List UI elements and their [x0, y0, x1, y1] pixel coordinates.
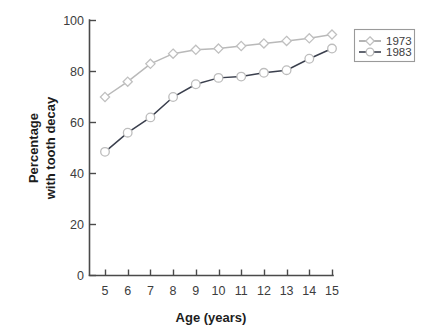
data-point-1983-age-12[interactable]: [260, 68, 269, 77]
x-tick-label-15: 15: [325, 284, 339, 298]
data-point-1983-age-8[interactable]: [169, 93, 178, 102]
y-tick-label-80: 80: [70, 65, 84, 79]
y-axis-tick-labels: 0 20 40 60 80 100: [63, 14, 84, 283]
x-axis-tick-labels: 56789101112131415: [102, 284, 339, 298]
x-tick-label-6: 6: [124, 284, 131, 298]
data-point-1983-age-10[interactable]: [214, 74, 223, 83]
y-axis-title: Percentage with tooth decay: [26, 96, 58, 200]
x-axis-title: Age (years): [176, 310, 247, 325]
y-axis-title-line2: with tooth decay: [43, 96, 58, 200]
legend-marker-circle-icon: [366, 48, 374, 56]
data-point-1973-age-8[interactable]: [169, 49, 178, 58]
data-point-1973-age-9[interactable]: [191, 45, 200, 54]
data-point-1973-age-14[interactable]: [305, 34, 314, 43]
data-point-1983-age-9[interactable]: [192, 80, 201, 89]
x-tick-label-9: 9: [192, 284, 199, 298]
data-point-1983-age-11[interactable]: [237, 72, 246, 81]
x-axis-ticks: [106, 270, 333, 276]
chart-figure: 0 20 40 60 80 100 56789101112131415 Age …: [0, 0, 434, 335]
data-point-1983-age-15[interactable]: [328, 44, 337, 53]
data-point-1973-age-15[interactable]: [327, 30, 336, 39]
x-tick-label-7: 7: [147, 284, 154, 298]
x-tick-label-8: 8: [170, 284, 177, 298]
series-layer: [100, 30, 336, 156]
data-point-1983-age-6[interactable]: [123, 128, 132, 137]
axes: [90, 20, 334, 276]
data-point-1973-age-5[interactable]: [100, 92, 109, 101]
y-axis-ticks: [90, 21, 97, 276]
legend: 1973 1983: [355, 30, 415, 62]
data-point-1983-age-14[interactable]: [305, 54, 314, 63]
line-chart: 0 20 40 60 80 100 56789101112131415 Age …: [0, 0, 434, 335]
x-tick-label-14: 14: [302, 284, 316, 298]
y-tick-label-0: 0: [77, 269, 84, 283]
data-point-1983-age-13[interactable]: [282, 66, 291, 75]
y-tick-label-100: 100: [63, 14, 84, 28]
series-1983: [101, 44, 337, 156]
series-1973: [100, 30, 336, 102]
data-point-1983-age-5[interactable]: [101, 148, 110, 157]
series-line-1983: [105, 49, 332, 152]
y-tick-label-40: 40: [70, 167, 84, 181]
data-point-1973-age-10[interactable]: [214, 44, 223, 53]
x-tick-label-11: 11: [235, 284, 248, 298]
y-axis-title-line1: Percentage: [26, 113, 41, 183]
x-tick-label-5: 5: [102, 284, 109, 298]
x-tick-label-13: 13: [280, 284, 294, 298]
data-point-1973-age-13[interactable]: [282, 36, 291, 45]
y-tick-label-60: 60: [70, 116, 84, 130]
data-point-1973-age-12[interactable]: [259, 39, 268, 48]
x-tick-label-12: 12: [257, 284, 271, 298]
legend-label-1983: 1983: [386, 46, 412, 58]
x-tick-label-10: 10: [212, 284, 226, 298]
data-point-1973-age-11[interactable]: [237, 41, 246, 50]
data-point-1983-age-7[interactable]: [146, 113, 155, 122]
y-tick-label-20: 20: [70, 218, 84, 232]
